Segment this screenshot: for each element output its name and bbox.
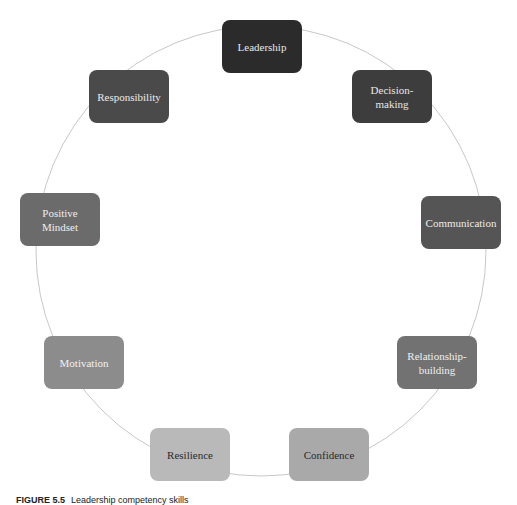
node-leadership: Leadership (222, 20, 302, 73)
node-label-line2: building (407, 363, 466, 377)
node-resilience: Resilience (150, 428, 230, 481)
node-label: Motivation (60, 356, 109, 370)
node-label: Communication (426, 216, 497, 230)
node-label-line2: making (371, 97, 414, 111)
node-motivation: Motivation (44, 336, 124, 389)
node-confidence: Confidence (289, 428, 369, 481)
figure-number: FIGURE 5.5 (16, 495, 65, 505)
figure-caption: FIGURE 5.5Leadership competency skills (16, 495, 189, 505)
node-label: Resilience (167, 448, 213, 462)
node-decision-making: Decision-making (352, 70, 432, 123)
node-label: Leadership (238, 40, 287, 54)
caption-text: Leadership competency skills (71, 495, 189, 505)
node-relationship-building: Relationship-building (397, 336, 477, 389)
node-label: Confidence (304, 448, 355, 462)
node-label-line2: Mindset (42, 220, 78, 234)
node-positive-mindset: PositiveMindset (20, 193, 100, 246)
node-label-line1: Positive (42, 206, 78, 220)
node-responsibility: Responsibility (89, 70, 169, 123)
node-label-line1: Decision- (371, 83, 414, 97)
node-communication: Communication (421, 196, 501, 249)
node-label-line1: Relationship- (407, 349, 466, 363)
node-label: Responsibility (97, 90, 161, 104)
